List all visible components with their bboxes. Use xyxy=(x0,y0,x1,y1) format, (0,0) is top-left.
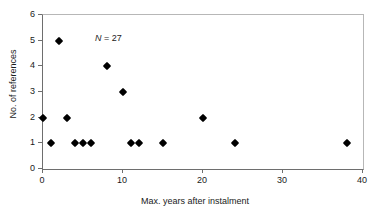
data-point xyxy=(79,139,87,147)
y-axis-tick-label: 2 xyxy=(22,112,35,122)
data-point xyxy=(135,139,143,147)
y-axis-tick-label: 0 xyxy=(22,163,35,173)
x-axis-tick-label: 0 xyxy=(39,175,44,185)
y-axis-tick-label: 5 xyxy=(22,35,35,45)
sample-size-annotation: N = 27 xyxy=(95,33,122,43)
data-point xyxy=(55,36,63,44)
y-axis-tick-label: 4 xyxy=(22,60,35,70)
annotation-value: = 27 xyxy=(102,33,122,43)
x-axis-title: Max. years after instalment xyxy=(0,196,390,206)
data-points-layer xyxy=(43,15,363,169)
data-point xyxy=(119,88,127,96)
y-axis-title: No. of references xyxy=(8,9,18,159)
x-axis-tick-label: 10 xyxy=(117,175,127,185)
data-point xyxy=(39,113,47,121)
data-point xyxy=(87,139,95,147)
x-axis-tick-label: 40 xyxy=(357,175,367,185)
data-point xyxy=(71,139,79,147)
data-point xyxy=(63,113,71,121)
data-point xyxy=(231,139,239,147)
data-point xyxy=(47,139,55,147)
x-axis-tick-label: 30 xyxy=(277,175,287,185)
plot-area: N = 27 xyxy=(42,14,364,170)
data-point xyxy=(343,139,351,147)
x-axis-tick-label: 20 xyxy=(197,175,207,185)
data-point xyxy=(199,113,207,121)
data-point xyxy=(103,62,111,70)
y-axis-tick-label: 6 xyxy=(22,9,35,19)
data-point xyxy=(159,139,167,147)
y-axis-tick-label: 3 xyxy=(22,86,35,96)
scatter-chart-figure: 0123456 010203040 N = 27 Max. years afte… xyxy=(0,0,390,218)
y-axis-tick-label: 1 xyxy=(22,137,35,147)
data-point xyxy=(127,139,135,147)
